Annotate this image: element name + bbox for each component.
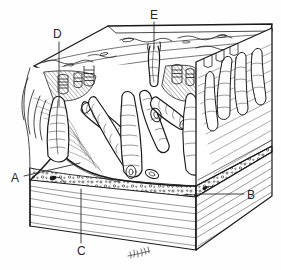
artist-signature (128, 247, 150, 258)
label-a[interactable]: A (11, 172, 19, 184)
anatomy-line-drawing (0, 0, 281, 270)
label-c[interactable]: C (77, 245, 86, 257)
crypt-invagination (148, 46, 160, 87)
label-b[interactable]: B (247, 189, 255, 201)
anatomy-figure: A B C D E (0, 0, 281, 270)
label-d[interactable]: D (53, 28, 62, 40)
label-e[interactable]: E (150, 9, 158, 21)
